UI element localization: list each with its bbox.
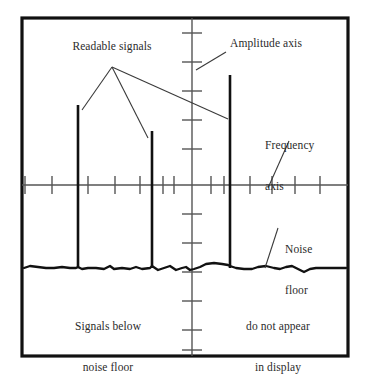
- label-signals-below-line2: noise floor: [43, 361, 173, 375]
- label-signals-below-line1: Signals below: [43, 320, 173, 334]
- label-frequency-axis: Frequency axis: [265, 112, 350, 220]
- spectrum-analyzer-figure: Readable signals Amplitude axis Frequenc…: [0, 0, 368, 378]
- label-do-not-appear-line1: do not appear: [218, 320, 338, 334]
- label-readable-signals: Readable signals: [46, 40, 178, 54]
- label-do-not-appear-line2: in display: [218, 361, 338, 375]
- label-frequency-axis-line1: Frequency: [265, 139, 350, 153]
- label-signals-below-noise-floor: Signals below noise floor: [43, 293, 173, 378]
- label-do-not-appear-in-display: do not appear in display: [218, 293, 338, 378]
- label-amplitude-axis: Amplitude axis: [230, 37, 350, 51]
- label-noise-floor-line1: Noise: [285, 243, 355, 257]
- label-frequency-axis-line2: axis: [265, 180, 350, 194]
